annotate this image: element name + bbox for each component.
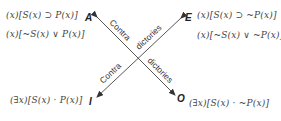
contradictory-arrow-a-o: [97, 17, 175, 95]
relations-diagram: Contra dictories Contra dictories: [0, 0, 281, 121]
relation-label-e-i-part2: dictories: [134, 23, 164, 52]
relation-label-a-o-part1: Contra: [108, 17, 133, 42]
relation-label-e-i-part1: Contra: [98, 61, 124, 86]
